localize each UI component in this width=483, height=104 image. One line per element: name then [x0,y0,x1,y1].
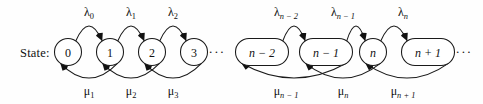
edge-lambda-0-arrowhead [96,33,103,41]
state-node-label-sn-2: n − 2 [249,46,275,60]
state-node-label-sn+1: n + 1 [415,46,441,60]
state-node-label-sn: n [370,46,376,60]
diagram-canvas: 0123n − 2n − 1nn + 1 [0,0,483,104]
edge-lambda-2-arrowhead [180,33,187,41]
edge-lambda-n-1-arrowhead [360,33,367,41]
state-node-label-sn-1: n − 1 [313,46,339,60]
edge-lambda-1-arrowhead [138,33,145,41]
state-node-label-s0: 0 [65,46,71,60]
state-node-label-s3: 3 [191,46,197,60]
state-node-label-s1: 1 [107,46,113,60]
state-nodes-layer: 0123n − 2n − 1nn + 1 [55,39,455,66]
edge-lambda-n-arrowhead [401,33,408,41]
state-node-label-s2: 2 [149,46,155,60]
edge-lambda-n-2-arrowhead [299,33,306,41]
state-transition-diagram: 0123n − 2n − 1nn + 1 State: λ0λ1λ2λn − 2… [0,0,483,104]
